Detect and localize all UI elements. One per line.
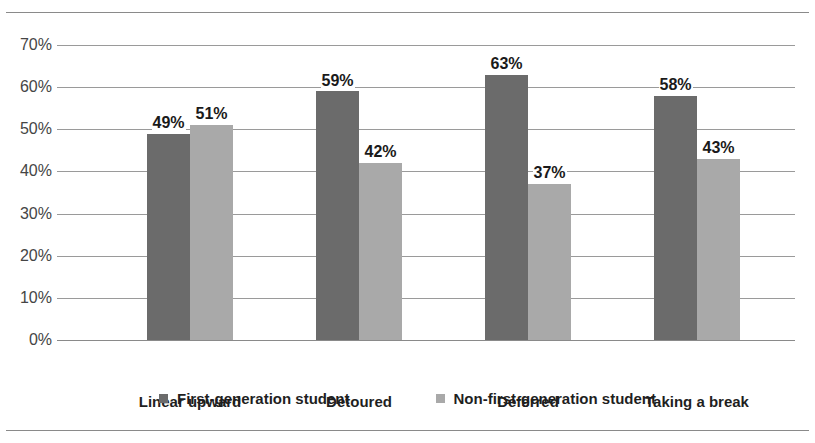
- ytick-label-30: 30%: [20, 205, 52, 223]
- ytick-label-10: 10%: [20, 289, 52, 307]
- legend-item-first-generation-student[interactable]: First-generation student: [159, 390, 350, 407]
- legend-label: First-generation student: [177, 390, 350, 407]
- ytick-label-0: 0%: [29, 331, 52, 349]
- bar-first-generation-detoured[interactable]: 59%: [316, 91, 359, 340]
- bar-value-label: 58%: [658, 77, 692, 94]
- gridline-baseline-0: 0%: [57, 340, 795, 341]
- bar-non-first-generation-detoured[interactable]: 42%: [359, 163, 402, 340]
- legend-swatch-icon: [159, 394, 168, 403]
- ytick-label-60: 60%: [20, 78, 52, 96]
- legend-label: Non-first-generation student: [454, 390, 657, 407]
- bar-value-label: 59%: [320, 73, 354, 90]
- ytick-label-20: 20%: [20, 247, 52, 265]
- bar-non-first-generation-linear-upward[interactable]: 51%: [190, 125, 233, 340]
- ytick-label-50: 50%: [20, 120, 52, 138]
- top-divider-rule: [6, 12, 809, 13]
- bar-value-label: 37%: [532, 165, 566, 182]
- bar-series-container: 49% 51% 59% 42%: [57, 45, 795, 340]
- bar-group-linear-upward: 49% 51%: [147, 45, 233, 340]
- plot-area: 70% 60% 50% 40% 30% 20% 10% 0%: [57, 45, 795, 340]
- bar-value-label: 43%: [701, 140, 735, 157]
- bar-value-label: 51%: [194, 106, 228, 123]
- bar-first-generation-deferred[interactable]: 63%: [485, 75, 528, 341]
- bar-group-taking-a-break: 58% 43%: [654, 45, 740, 340]
- bar-non-first-generation-deferred[interactable]: 37%: [528, 184, 571, 340]
- bar-first-generation-linear-upward[interactable]: 49%: [147, 134, 190, 341]
- ytick-label-40: 40%: [20, 162, 52, 180]
- legend-item-non-first-generation-student[interactable]: Non-first-generation student: [436, 390, 657, 407]
- ytick-label-70: 70%: [20, 36, 52, 54]
- bar-group-deferred: 63% 37%: [485, 45, 571, 340]
- bottom-divider-rule: [6, 430, 809, 431]
- bar-value-label: 49%: [151, 115, 185, 132]
- bar-group-detoured: 59% 42%: [316, 45, 402, 340]
- legend-swatch-icon: [436, 394, 445, 403]
- chart-figure: 70% 60% 50% 40% 30% 20% 10% 0%: [0, 0, 815, 443]
- bar-value-label: 42%: [363, 144, 397, 161]
- bar-first-generation-taking-a-break[interactable]: 58%: [654, 96, 697, 340]
- bar-value-label: 63%: [489, 56, 523, 73]
- bar-non-first-generation-taking-a-break[interactable]: 43%: [697, 159, 740, 340]
- chart-legend: First-generation student Non-first-gener…: [0, 390, 815, 407]
